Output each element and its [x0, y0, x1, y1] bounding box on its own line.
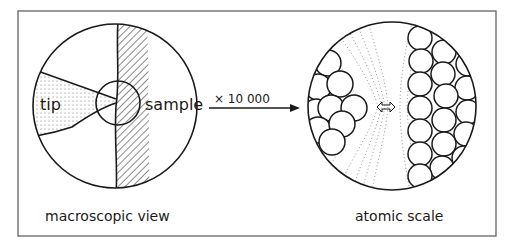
atomic-caption: atomic scale [355, 208, 443, 224]
sample-atoms [408, 26, 480, 188]
double-arrow-icon [377, 102, 395, 112]
tip-label: tip [40, 95, 61, 114]
macroscopic-caption: macroscopic view [45, 208, 170, 224]
magnification-label: × 10 000 [214, 92, 270, 106]
macroscopic-view-panel: tip sample macroscopic view [30, 20, 203, 224]
magnification-arrow: × 10 000 [209, 92, 300, 112]
tip-atoms [303, 50, 367, 155]
stm-diagram: tip sample macroscopic view × 10 000 [0, 0, 515, 248]
arrow-head-icon [290, 104, 300, 112]
sample-label: sample [145, 95, 203, 114]
atomic-scale-panel: atomic scale [303, 22, 480, 224]
